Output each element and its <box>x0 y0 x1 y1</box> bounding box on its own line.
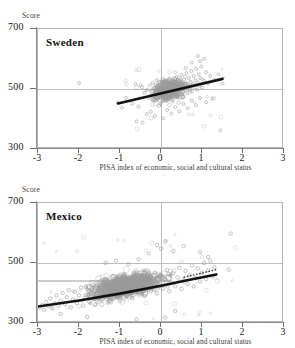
panel-mexico: Score 700 500 300 Mexico -3-2-10123 PISA… <box>0 174 295 348</box>
x-tick-label-0: 0 <box>148 152 172 163</box>
x-tick-label--2: -2 <box>66 326 90 337</box>
x-tick-label--1: -1 <box>107 326 131 337</box>
x-tick-label--3: -3 <box>25 152 49 163</box>
y-axis-title-sweden: Score <box>22 11 40 20</box>
x-tick-label-2: 2 <box>230 152 254 163</box>
panel-sweden: Score 700 500 300 Sweden -3-2-10123 PISA… <box>0 0 295 174</box>
x-tick-label-3: 3 <box>271 152 295 163</box>
x-tick-label-1: 1 <box>189 152 213 163</box>
x-axis-caption-mexico: PISA index of economic, social and cultu… <box>0 337 295 346</box>
x-tick-label-0: 0 <box>148 326 172 337</box>
y-tick-label-300-mexico: 300 <box>8 315 24 326</box>
y-tick-label-300-sweden: 300 <box>8 141 24 152</box>
x-axis-caption-text-mexico: PISA index of economic, social and cultu… <box>43 337 251 346</box>
y-tick-label-500-mexico: 500 <box>8 255 24 266</box>
y-tick-label-700-mexico: 700 <box>8 195 24 206</box>
panel-title-mexico: Mexico <box>46 210 82 222</box>
x-tick-label--1: -1 <box>107 152 131 163</box>
pisa-scatter-figure: Score 700 500 300 Sweden -3-2-10123 PISA… <box>0 0 295 348</box>
y-tick-label-500-sweden: 500 <box>8 81 24 92</box>
x-tick-label-2: 2 <box>230 326 254 337</box>
y-tick-label-700-sweden: 700 <box>8 21 24 32</box>
x-tick-label-3: 3 <box>271 326 295 337</box>
panel-title-sweden: Sweden <box>46 36 84 48</box>
x-tick-label--2: -2 <box>66 152 90 163</box>
x-axis-caption-sweden: PISA index of economic, social and cultu… <box>0 163 295 172</box>
x-tick-label--3: -3 <box>25 326 49 337</box>
x-axis-caption-text-sweden: PISA index of economic, social and cultu… <box>43 163 251 172</box>
x-tick-label-1: 1 <box>189 326 213 337</box>
y-axis-title-mexico: Score <box>22 185 40 194</box>
